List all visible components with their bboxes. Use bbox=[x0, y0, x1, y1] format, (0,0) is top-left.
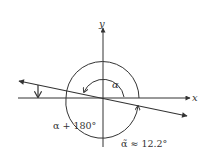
alpha-plus-180-label: α + 180° bbox=[53, 120, 96, 131]
angle-diagram: x y α α + 180° α̃ ≈ 12.2° bbox=[0, 0, 213, 168]
x-axis-label: x bbox=[192, 92, 198, 103]
reference-angle-label: α̃ ≈ 12.2° bbox=[121, 138, 167, 149]
y-axis-label: y bbox=[98, 18, 105, 29]
alpha-label: α bbox=[112, 79, 119, 90]
